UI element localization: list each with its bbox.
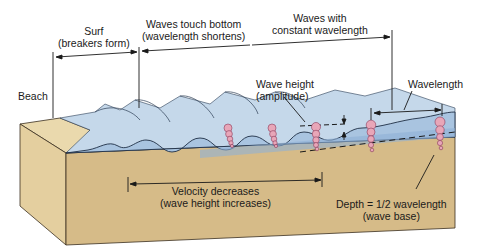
waves-touch-bottom-label: Waves touch bottom (wavelength shortens) (142, 18, 245, 42)
waves-constant-label: Waves with constant wavelength (272, 12, 368, 36)
velocity-label: Velocity decreases (wave height increase… (160, 185, 271, 209)
depth-label: Depth = 1/2 wavelength (wave base) (336, 198, 447, 222)
wavelength-label: Wavelength (408, 78, 463, 90)
beach-label: Beach (18, 90, 48, 102)
surf-label: Surf (breakers form) (58, 25, 130, 49)
wave-height-label: Wave height (amplitude) (256, 78, 314, 102)
